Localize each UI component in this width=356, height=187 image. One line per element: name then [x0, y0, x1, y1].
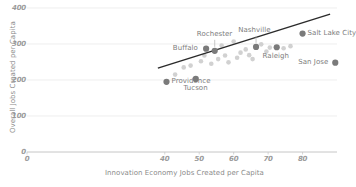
point-label-salt-lake-city: Salt Lake City — [308, 29, 356, 37]
x-tick-label: 70 — [256, 155, 280, 163]
gridlines — [27, 8, 337, 116]
x-tick-label: 50 — [187, 155, 211, 163]
point-label-san-jose: San Jose — [298, 58, 328, 66]
point-label-rochester: Rochester — [197, 30, 232, 38]
point-label-buffalo: Buffalo — [173, 44, 198, 52]
x-tick-label: 0 — [15, 155, 39, 163]
x-tick-label: 40 — [153, 155, 177, 163]
y-axis-title: Overall Jobs Created per Capita — [9, 21, 17, 133]
x-tick-label: 60 — [222, 155, 246, 163]
point-label-nashville: Nashville — [238, 26, 270, 34]
point-label-tucson: Tucson — [184, 84, 208, 92]
x-axis-title: Innovation Economy Jobs Created per Capi… — [105, 169, 264, 177]
x-tick-label: 80 — [291, 155, 315, 163]
y-tick-label: 400 — [0, 4, 26, 12]
point-label-raleigh: Raleigh — [263, 52, 289, 60]
